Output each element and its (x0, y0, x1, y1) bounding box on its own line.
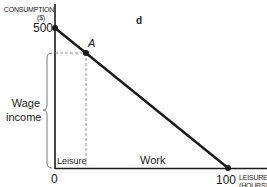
panel-label: d (136, 16, 142, 26)
point-a (83, 50, 89, 56)
x-tick-100: 100 (216, 174, 236, 186)
x-tick-0: 0 (51, 173, 58, 185)
wage-income-line2: income (6, 112, 40, 123)
point-a-label: A (88, 38, 95, 49)
x-axis-label-line2: (HOURS) (239, 182, 267, 187)
y-axis-label-line2: ($) (1, 14, 57, 21)
x-axis-label: LEISURE (HOURS) (239, 174, 267, 187)
y-axis-label: CONSUMPTION ($) (1, 6, 57, 21)
point-intercept-x (225, 165, 231, 171)
wage-income-line1: Wage (6, 98, 40, 109)
work-segment-label: Work (140, 155, 165, 166)
x-axis-label-line1: LEISURE (239, 174, 267, 181)
y-axis-label-line1: CONSUMPTION (1, 6, 57, 13)
wage-income-brace (43, 53, 52, 168)
budget-line (55, 28, 228, 168)
wage-income-label: Wage income (6, 98, 40, 123)
y-tick-500: 500 (33, 22, 53, 34)
leisure-segment-label: Leisure (57, 157, 87, 166)
